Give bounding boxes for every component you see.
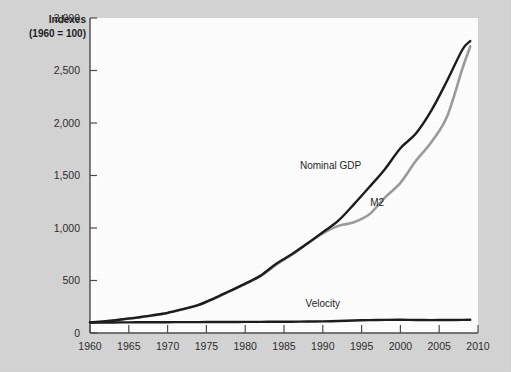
y-tick-label: 0 [74, 327, 80, 339]
x-tick-label: 2005 [428, 340, 452, 352]
x-tick-label: 2010 [466, 340, 490, 352]
x-tick-label: 1970 [156, 340, 180, 352]
x-tick-label: 1960 [78, 340, 102, 352]
x-tick-label: 1985 [272, 340, 296, 352]
x-tick-label: 1990 [311, 340, 335, 352]
y-tick-label: 2,500 [54, 64, 80, 76]
y-tick-label: 2,000 [54, 117, 80, 129]
y-tick-label: 3,000 [54, 12, 80, 24]
plot-area-background [90, 18, 478, 333]
line-chart: Indexes (1960 = 100) 05001,0001,5002,000… [0, 0, 511, 372]
y-tick-label: 1,000 [54, 222, 80, 234]
x-tick-label: 1965 [117, 340, 141, 352]
x-tick-label: 2000 [389, 340, 413, 352]
series-label-m2: M2 [370, 197, 384, 208]
y-tick-label: 1,500 [54, 169, 80, 181]
series-label-velocity: Velocity [306, 298, 340, 309]
x-tick-label: 1995 [350, 340, 374, 352]
x-tick-label: 1975 [195, 340, 219, 352]
figure-container: Indexes (1960 = 100) 05001,0001,5002,000… [0, 0, 511, 372]
y-tick-label: 500 [62, 274, 80, 286]
y-axis-title-line2: (1960 = 100) [29, 28, 86, 39]
series-label-nominal-gdp: Nominal GDP [300, 160, 361, 171]
x-tick-label: 1980 [234, 340, 258, 352]
